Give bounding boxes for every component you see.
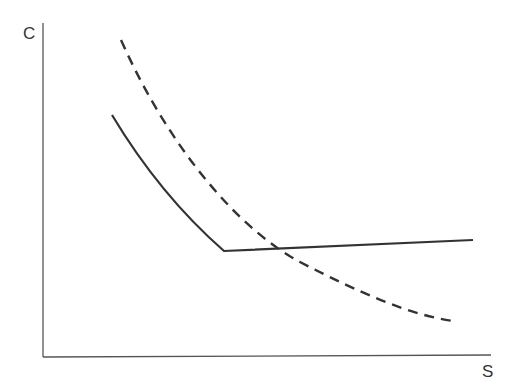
chart: C S bbox=[0, 0, 521, 388]
x-axis-label: S bbox=[482, 362, 493, 381]
dashed-curve bbox=[121, 40, 453, 321]
solid-kinked-curve bbox=[112, 115, 473, 251]
y-axis-label: C bbox=[23, 24, 35, 43]
x-axis bbox=[43, 355, 491, 357]
